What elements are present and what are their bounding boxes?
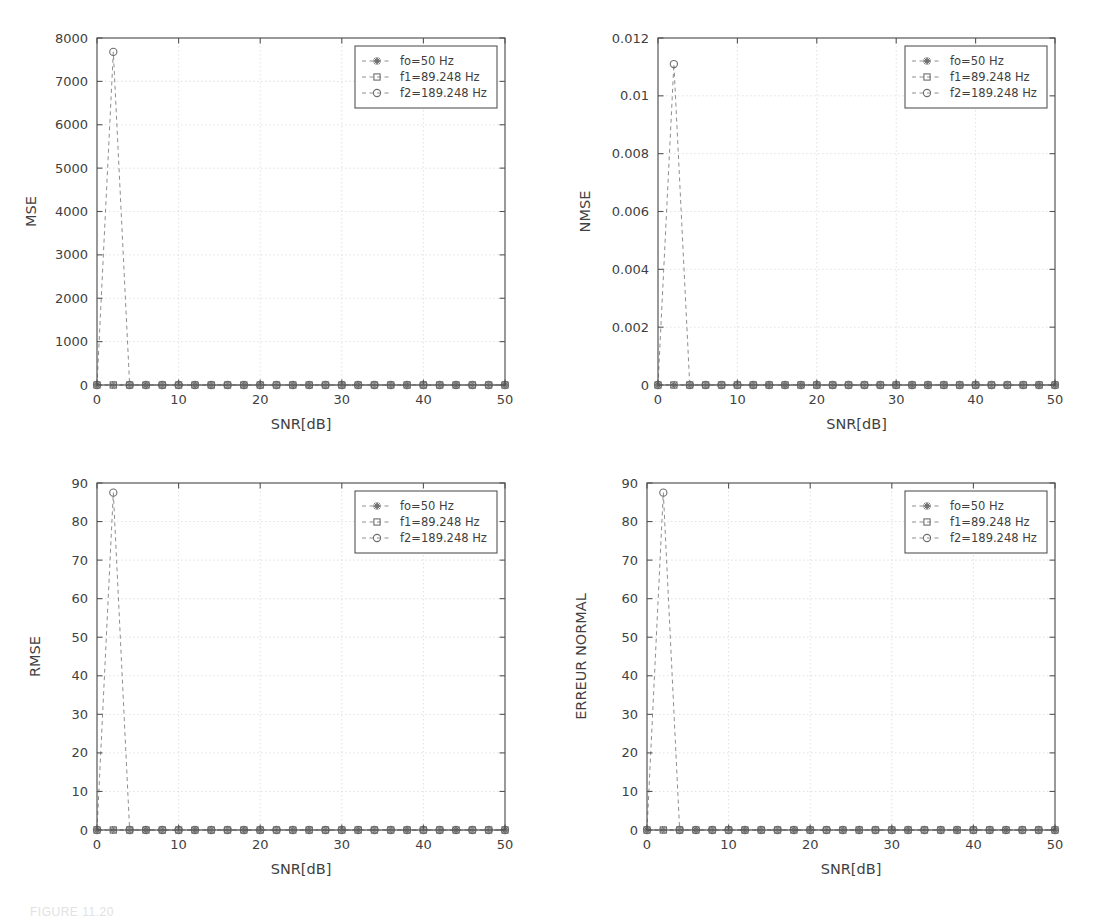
y-tick-label: 0.008 — [612, 146, 649, 161]
x-tick-label: 20 — [802, 837, 819, 852]
panel-nmse: 00.0020.0040.0060.0080.010.0120102030405… — [550, 0, 1100, 445]
x-tick-label: 20 — [252, 837, 269, 852]
y-tick-label: 1000 — [55, 334, 88, 349]
legend: fo=50 Hzf1=89.248 Hzf2=189.248 Hz — [905, 491, 1047, 553]
x-tick-label: 40 — [965, 837, 982, 852]
plot-erreur-normal: 010203040506070809001020304050SNR[dB]ERR… — [550, 445, 1100, 880]
y-tick-label: 70 — [621, 553, 638, 568]
y-tick-label: 4000 — [55, 204, 88, 219]
x-axis-label: SNR[dB] — [271, 861, 332, 877]
y-tick-label: 10 — [71, 784, 88, 799]
x-axis-label: SNR[dB] — [826, 416, 887, 432]
y-tick-label: 6000 — [55, 117, 88, 132]
legend-label: fo=50 Hz — [950, 54, 1004, 68]
y-axis-label: MSE — [23, 196, 39, 227]
x-tick-label: 0 — [654, 392, 662, 407]
panel-erreur-normal: 010203040506070809001020304050SNR[dB]ERR… — [550, 445, 1100, 880]
plot-mse: 0100020003000400050006000700080000102030… — [0, 0, 550, 445]
y-tick-label: 30 — [71, 707, 88, 722]
x-tick-label: 40 — [415, 392, 432, 407]
x-tick-label: 20 — [809, 392, 826, 407]
legend-label: fo=50 Hz — [400, 54, 454, 68]
y-tick-label: 0.012 — [612, 31, 649, 46]
y-tick-label: 80 — [621, 514, 638, 529]
y-tick-label: 70 — [71, 553, 88, 568]
y-tick-label: 60 — [621, 591, 638, 606]
legend: fo=50 Hzf1=89.248 Hzf2=189.248 Hz — [905, 46, 1047, 108]
legend-label: f1=89.248 Hz — [950, 70, 1030, 84]
legend-label: f1=89.248 Hz — [400, 515, 480, 529]
y-axis-label: ERREUR NORMAL — [573, 593, 589, 720]
x-tick-label: 30 — [884, 837, 901, 852]
x-tick-label: 10 — [720, 837, 737, 852]
panel-rmse: 010203040506070809001020304050SNR[dB]RMS… — [0, 445, 550, 880]
x-tick-label: 30 — [888, 392, 905, 407]
y-tick-label: 30 — [621, 707, 638, 722]
x-axis-label: SNR[dB] — [271, 416, 332, 432]
legend: fo=50 Hzf1=89.248 Hzf2=189.248 Hz — [355, 491, 497, 553]
y-tick-label: 40 — [621, 668, 638, 683]
x-tick-label: 0 — [643, 837, 651, 852]
x-tick-label: 10 — [170, 392, 187, 407]
figure-panel-grid: 0100020003000400050006000700080000102030… — [0, 0, 1100, 880]
y-tick-label: 0 — [630, 823, 638, 838]
x-tick-label: 30 — [334, 837, 351, 852]
y-tick-label: 90 — [71, 476, 88, 491]
y-tick-label: 10 — [621, 784, 638, 799]
x-tick-label: 10 — [729, 392, 746, 407]
y-tick-label: 90 — [621, 476, 638, 491]
y-tick-label: 7000 — [55, 74, 88, 89]
y-tick-label: 8000 — [55, 31, 88, 46]
panel-mse: 0100020003000400050006000700080000102030… — [0, 0, 550, 445]
y-tick-label: 40 — [71, 668, 88, 683]
legend-label: f1=89.248 Hz — [950, 515, 1030, 529]
legend-label: f1=89.248 Hz — [400, 70, 480, 84]
x-tick-label: 0 — [93, 392, 101, 407]
x-tick-label: 50 — [1047, 837, 1064, 852]
x-tick-label: 20 — [252, 392, 269, 407]
y-tick-label: 50 — [621, 630, 638, 645]
plot-rmse: 010203040506070809001020304050SNR[dB]RMS… — [0, 445, 550, 880]
x-tick-label: 50 — [1047, 392, 1064, 407]
plot-nmse: 00.0020.0040.0060.0080.010.0120102030405… — [550, 0, 1100, 445]
x-axis-label: SNR[dB] — [821, 861, 882, 877]
x-tick-label: 40 — [967, 392, 984, 407]
y-tick-label: 80 — [71, 514, 88, 529]
y-tick-label: 0.006 — [612, 204, 649, 219]
y-tick-label: 20 — [621, 745, 638, 760]
x-tick-label: 10 — [170, 837, 187, 852]
y-tick-label: 0 — [80, 823, 88, 838]
x-tick-label: 0 — [93, 837, 101, 852]
figure-caption: FIGURE 11.20 — [30, 905, 114, 919]
y-tick-label: 3000 — [55, 247, 88, 262]
legend-label: f2=189.248 Hz — [950, 531, 1037, 545]
y-tick-label: 0.004 — [612, 262, 649, 277]
y-tick-label: 20 — [71, 745, 88, 760]
y-tick-label: 2000 — [55, 291, 88, 306]
y-axis-label: NMSE — [577, 191, 593, 233]
legend-label: fo=50 Hz — [400, 499, 454, 513]
y-tick-label: 60 — [71, 591, 88, 606]
x-tick-label: 50 — [497, 837, 514, 852]
y-tick-label: 50 — [71, 630, 88, 645]
y-tick-label: 0.002 — [612, 320, 649, 335]
legend-label: f2=189.248 Hz — [400, 531, 487, 545]
y-axis-label: RMSE — [27, 636, 43, 677]
y-tick-label: 0.01 — [620, 88, 649, 103]
y-tick-label: 0 — [641, 378, 649, 393]
legend-label: f2=189.248 Hz — [950, 86, 1037, 100]
y-tick-label: 5000 — [55, 161, 88, 176]
legend: fo=50 Hzf1=89.248 Hzf2=189.248 Hz — [355, 46, 497, 108]
x-tick-label: 30 — [334, 392, 351, 407]
x-tick-label: 50 — [497, 392, 514, 407]
legend-label: fo=50 Hz — [950, 499, 1004, 513]
y-tick-label: 0 — [80, 378, 88, 393]
x-tick-label: 40 — [415, 837, 432, 852]
legend-label: f2=189.248 Hz — [400, 86, 487, 100]
